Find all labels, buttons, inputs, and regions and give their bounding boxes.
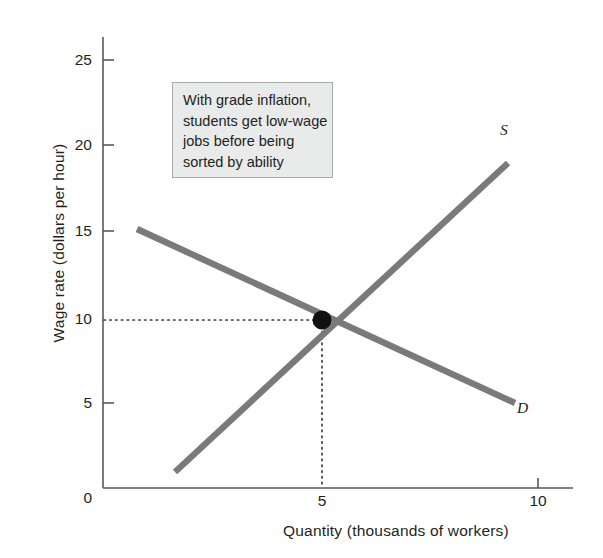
y-tick-label-0: 0 (58, 489, 92, 507)
x-tick-label-5: 5 (307, 492, 337, 510)
x-tick-label-10: 10 (523, 492, 553, 510)
supply-curve (175, 163, 508, 472)
annotation-text: With grade inflation, students get low-w… (183, 90, 335, 172)
equilibrium-point-marker (313, 311, 332, 330)
y-tick-label-5: 5 (58, 394, 92, 412)
y-axis-title: Wage rate (dollars per hour) (50, 113, 68, 373)
y-tick-label-25: 25 (58, 51, 92, 69)
supply-curve-label: S (500, 121, 508, 139)
economics-supply-demand-figure: With grade inflation, students get low-w… (0, 0, 603, 558)
x-axis-title: Quantity (thousands of workers) (283, 522, 509, 540)
demand-curve-label: D (517, 399, 528, 417)
